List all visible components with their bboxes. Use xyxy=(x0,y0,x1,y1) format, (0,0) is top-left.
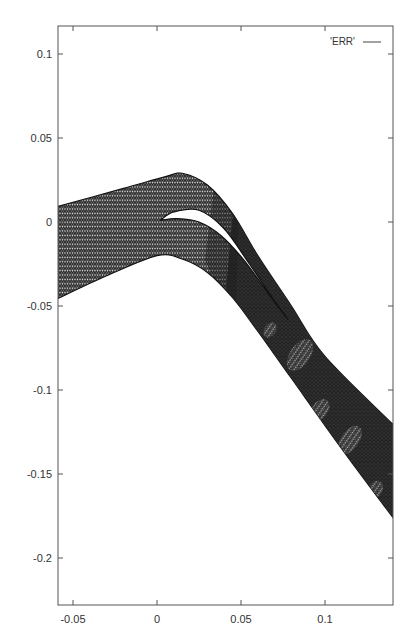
mesh-plot: -0.0500.050.10.10.050-0.05-0.1-0.15-0.2 … xyxy=(0,0,412,642)
y-tick-label: -0.15 xyxy=(27,468,52,480)
y-tick-label: -0.1 xyxy=(33,384,52,396)
plot-frame xyxy=(58,26,393,605)
mesh-region xyxy=(56,173,400,620)
x-tick-label: 0 xyxy=(154,613,160,625)
y-tick-label: -0.2 xyxy=(33,552,52,564)
x-tick-label: -0.05 xyxy=(60,613,85,625)
y-tick-label: 0 xyxy=(46,216,52,228)
y-tick-label: -0.05 xyxy=(27,300,52,312)
y-tick-label: 0.05 xyxy=(31,132,52,144)
x-tick-label: 0.05 xyxy=(230,613,251,625)
axes: -0.0500.050.10.10.050-0.05-0.1-0.15-0.2 xyxy=(27,26,393,625)
y-tick-label: 0.1 xyxy=(37,48,52,60)
x-tick-label: 0.1 xyxy=(317,613,332,625)
legend-label: 'ERR' xyxy=(330,36,355,47)
legend: 'ERR' xyxy=(330,36,381,47)
